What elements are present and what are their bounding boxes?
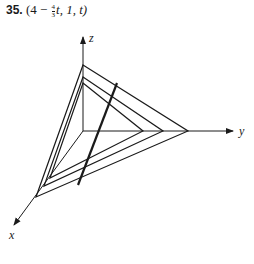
3d-diagram xyxy=(0,0,254,264)
y-axis-label: y xyxy=(239,124,244,139)
x-axis-label: x xyxy=(9,228,14,243)
x-axis xyxy=(14,131,83,225)
z-axis-label: z xyxy=(89,31,94,46)
